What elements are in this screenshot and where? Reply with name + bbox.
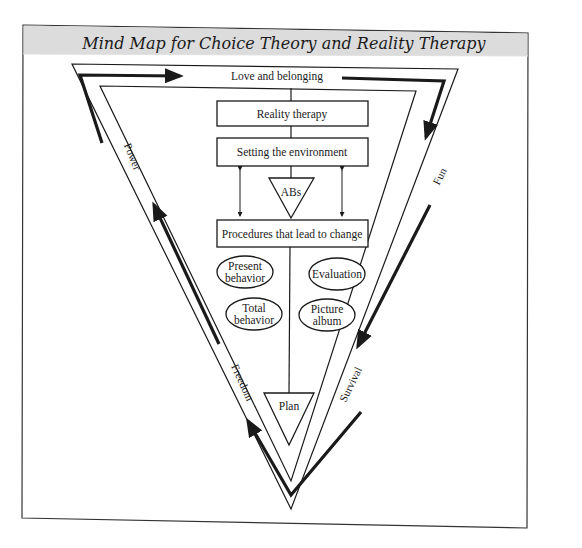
box-procedures: Procedures that lead to change	[217, 220, 368, 247]
svg-text:album: album	[313, 315, 342, 327]
svg-text:Plan: Plan	[279, 400, 300, 412]
svg-text:Evaluation: Evaluation	[312, 268, 362, 280]
box-reality-therapy: Reality therapy	[217, 101, 368, 126]
oval-picture-album: Picture album	[299, 299, 355, 331]
diagram-title: Mind Map for Choice Theory and Reality T…	[81, 34, 486, 53]
box-setting-environment: Setting the environment	[217, 138, 368, 166]
svg-text:Picture: Picture	[311, 303, 344, 315]
oval-present-behavior: Present behavior	[217, 256, 273, 288]
svg-text:Present: Present	[228, 260, 263, 272]
svg-text:behavior: behavior	[225, 272, 265, 284]
mind-map-diagram: Mind Map for Choice Theory and Reality T…	[0, 0, 582, 548]
svg-text:Setting the environment: Setting the environment	[237, 146, 348, 159]
svg-text:behavior: behavior	[234, 314, 274, 326]
svg-text:ABs: ABs	[281, 186, 302, 198]
svg-text:Reality therapy: Reality therapy	[257, 108, 328, 121]
need-love-and-belonging: Love and belonging	[231, 70, 323, 83]
svg-text:Total: Total	[242, 302, 265, 314]
oval-total-behavior: Total behavior	[226, 298, 282, 330]
oval-evaluation: Evaluation	[309, 258, 365, 290]
svg-text:Procedures that lead to change: Procedures that lead to change	[222, 228, 363, 241]
